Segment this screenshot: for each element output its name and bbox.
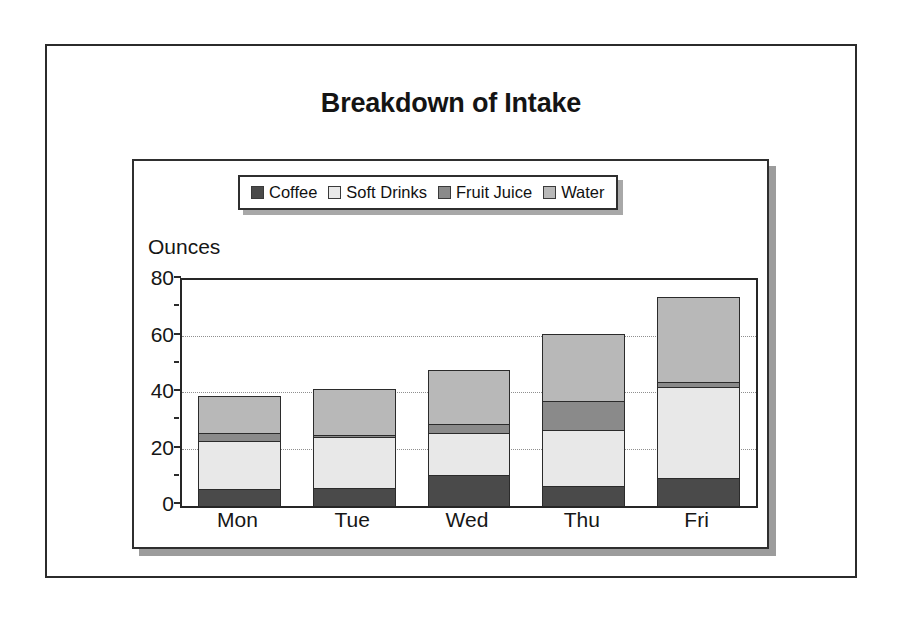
x-tick-label-thu: Thu	[564, 508, 600, 532]
bar-group-thu[interactable]	[542, 334, 625, 506]
plot-area	[180, 278, 758, 508]
bar-segment-soft-drinks[interactable]	[313, 437, 396, 488]
legend-swatch-icon	[251, 186, 264, 199]
x-tick-label-tue: Tue	[334, 508, 369, 532]
y-tick-mark	[174, 417, 179, 419]
bar-segment-water[interactable]	[542, 334, 625, 402]
bar-segment-coffee[interactable]	[198, 489, 281, 506]
y-tick-mark	[174, 361, 179, 363]
bar-group-wed[interactable]	[428, 370, 511, 506]
legend-swatch-icon	[438, 186, 451, 199]
legend-item-label: Soft Drinks	[346, 183, 427, 202]
bar-segment-soft-drinks[interactable]	[198, 441, 281, 489]
y-axis-tick-marks	[134, 278, 184, 504]
y-axis-title: Ounces	[148, 235, 220, 259]
bar-segment-soft-drinks[interactable]	[428, 433, 511, 475]
plot-inner	[182, 280, 756, 506]
bar-segment-coffee[interactable]	[313, 488, 396, 506]
legend-swatch-icon	[543, 186, 556, 199]
bar-segment-fruit-juice[interactable]	[542, 401, 625, 429]
bar-segment-coffee[interactable]	[428, 475, 511, 506]
bar-segment-coffee[interactable]	[657, 478, 740, 506]
legend-item-label: Fruit Juice	[456, 183, 532, 202]
legend-item-soft-drinks[interactable]: Soft Drinks	[328, 183, 427, 202]
bar-segment-coffee[interactable]	[542, 486, 625, 506]
y-tick-mark	[174, 304, 179, 306]
legend-item-label: Coffee	[269, 183, 317, 202]
bar-segment-water[interactable]	[198, 396, 281, 433]
bar-segment-soft-drinks[interactable]	[657, 387, 740, 477]
bar-segment-fruit-juice[interactable]	[428, 424, 511, 432]
chart-legend: CoffeeSoft DrinksFruit JuiceWater	[238, 175, 618, 210]
bar-group-mon[interactable]	[198, 396, 281, 506]
bar-segment-water[interactable]	[428, 370, 511, 424]
chart-panel: CoffeeSoft DrinksFruit JuiceWater Ounces…	[132, 159, 769, 549]
bar-segment-water[interactable]	[313, 389, 396, 436]
bar-group-tue[interactable]	[313, 389, 396, 506]
legend-item-fruit-juice[interactable]: Fruit Juice	[438, 183, 532, 202]
legend-item-coffee[interactable]: Coffee	[251, 183, 317, 202]
y-tick-mark	[174, 474, 179, 476]
legend-item-water[interactable]: Water	[543, 183, 604, 202]
legend-item-label: Water	[561, 183, 604, 202]
x-tick-label-fri: Fri	[684, 508, 709, 532]
bar-segment-water[interactable]	[657, 297, 740, 382]
x-tick-label-mon: Mon	[217, 508, 258, 532]
bar-segment-fruit-juice[interactable]	[198, 433, 281, 441]
bar-segment-soft-drinks[interactable]	[542, 430, 625, 487]
bar-group-fri[interactable]	[657, 297, 740, 506]
slide-page: Breakdown of Intake CoffeeSoft DrinksFru…	[45, 44, 857, 578]
x-tick-label-wed: Wed	[446, 508, 489, 532]
page-title: Breakdown of Intake	[47, 88, 855, 119]
legend-swatch-icon	[328, 186, 341, 199]
x-axis-tick-labels: MonTueWedThuFri	[180, 508, 758, 540]
